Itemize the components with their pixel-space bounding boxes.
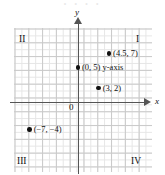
top-cropped-text: • • • •	[0, 0, 165, 9]
quadrant-2-label: II	[19, 35, 25, 45]
y-axis-label: y	[75, 8, 79, 17]
point-label-0-5: (0, 5) y-axis	[82, 63, 123, 72]
quadrant-3-label: III	[17, 157, 27, 167]
y-axis-arrow-icon	[74, 17, 82, 24]
x-axis-arrow-icon	[144, 98, 151, 106]
origin-label: 0	[69, 103, 74, 112]
point-label-3-2: (3, 2)	[103, 84, 121, 93]
y-axis-line	[78, 22, 79, 174]
point-label-neg7-neg4: (−7, −4)	[34, 125, 62, 134]
quadrant-1-label: I	[136, 35, 139, 45]
quadrant-4-label: IV	[131, 157, 141, 167]
point-marker-neg7-neg4	[27, 127, 32, 132]
coordinate-plane-figure: • • • • x y 0 I II III IV (4.5, 7) (0, 5…	[0, 0, 165, 175]
point-label-4-5-7: (4.5, 7)	[113, 49, 138, 58]
point-marker-0-5	[76, 65, 81, 70]
x-axis-label: x	[155, 97, 159, 106]
